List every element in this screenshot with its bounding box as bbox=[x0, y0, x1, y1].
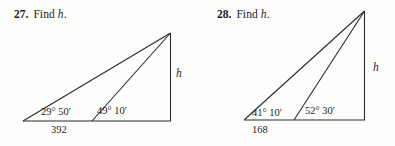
worksheet-page: 27.Find h. 29° 50′ 49° 10′ 392 h 28.Find… bbox=[0, 0, 395, 146]
problem-28-figure: 41° 10′ 52° 30′ 168 h bbox=[0, 0, 395, 146]
problem-28-height-label: h bbox=[373, 62, 379, 73]
problem-28-base-label: 168 bbox=[252, 124, 268, 135]
problem-28-angle-left-label: 41° 10′ bbox=[252, 107, 282, 118]
problem-28-angle-right-label: 52° 30′ bbox=[305, 105, 335, 116]
problem-28-diagram bbox=[0, 0, 395, 146]
